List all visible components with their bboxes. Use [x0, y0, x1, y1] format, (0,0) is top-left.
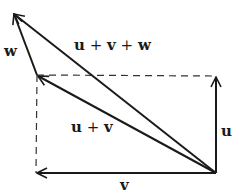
- label-u-plus-v: u + v: [71, 120, 113, 135]
- dashed-guide-left: [36, 75, 37, 173]
- term-v: v: [104, 118, 113, 136]
- term-w: w: [138, 36, 151, 54]
- label-u-plus-v-plus-w: u + v + w: [74, 38, 151, 53]
- label-u: u: [221, 124, 232, 139]
- term-v: v: [107, 36, 116, 54]
- term-u: u: [71, 118, 82, 136]
- label-w: w: [4, 44, 17, 59]
- plus-sign: +: [90, 36, 103, 54]
- vector-diagram-canvas: [0, 0, 232, 193]
- plus-sign: +: [87, 118, 100, 136]
- dashed-guide-top: [37, 75, 216, 76]
- term-u: u: [74, 36, 85, 54]
- label-v: v: [120, 178, 129, 193]
- vector-u-plus-v-arrow: [38, 76, 216, 173]
- plus-sign: +: [121, 36, 134, 54]
